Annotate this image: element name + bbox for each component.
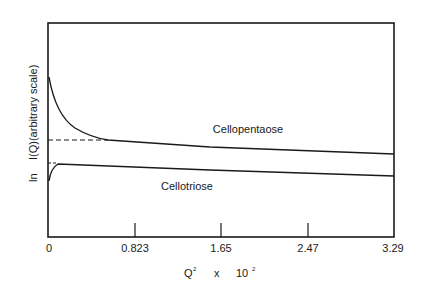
series-label-triose: Cellotriose <box>161 180 213 192</box>
chart-canvas: Cellopentaose Cellotriose 0 0.823 1.65 2… <box>0 0 427 291</box>
x-tick-label: 3.29 <box>382 242 403 254</box>
y-label-ln: ln <box>27 173 39 182</box>
x-tick-label: 0.823 <box>121 242 149 254</box>
triose-curve <box>49 164 394 181</box>
x-tick-label: 1.65 <box>210 242 231 254</box>
x-tick-label: 0 <box>46 242 52 254</box>
x-axis-label: Q 2 x 10 2 <box>184 266 256 279</box>
x-tick-marks <box>135 223 308 237</box>
x-label-ten: 10 <box>236 267 248 279</box>
x-label-q-sup: 2 <box>193 266 197 272</box>
y-axis-label: ln I(Q)(arbitrary scale) <box>27 65 39 182</box>
y-label-rest: I(Q)(arbitrary scale) <box>27 65 39 160</box>
pentaose-curve <box>49 77 394 154</box>
x-tick-labels: 0 0.823 1.65 2.47 3.29 <box>46 242 404 254</box>
series-label-pentaose: Cellopentaose <box>213 123 283 135</box>
x-label-times: x <box>214 267 220 279</box>
x-tick-label: 2.47 <box>297 242 318 254</box>
x-label-q: Q <box>184 267 193 279</box>
x-label-ten-sup: 2 <box>252 266 256 272</box>
